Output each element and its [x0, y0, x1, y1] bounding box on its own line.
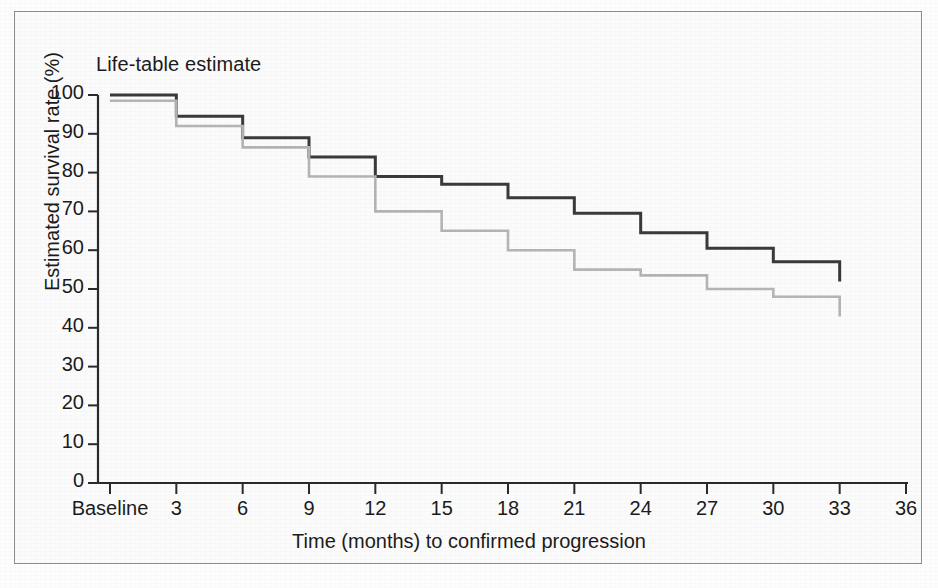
x-tick-label: 15: [422, 497, 462, 520]
y-tick-label: 70: [40, 197, 84, 220]
x-tick-label: 18: [488, 497, 528, 520]
x-tick-label: 3: [156, 497, 196, 520]
x-tick-label: 12: [355, 497, 395, 520]
y-tick-label: 60: [40, 236, 84, 259]
y-tick-label: 30: [40, 353, 84, 376]
figure-container: Life-table estimate Estimated survival r…: [0, 0, 938, 588]
series-line-lower: [110, 101, 840, 317]
y-tick-label: 50: [40, 275, 84, 298]
x-tick-label: 30: [753, 497, 793, 520]
x-tick-label: 6: [223, 497, 263, 520]
x-tick-label: 21: [554, 497, 594, 520]
y-tick-label: 20: [40, 391, 84, 414]
x-tick-label: Baseline: [50, 497, 170, 520]
axes-group: [88, 95, 908, 494]
y-tick-label: 40: [40, 314, 84, 337]
y-axis-ticks: [88, 95, 98, 483]
y-tick-label: 90: [40, 120, 84, 143]
x-tick-label: 27: [687, 497, 727, 520]
x-tick-label: 36: [886, 497, 926, 520]
series-line-upper: [110, 95, 840, 282]
x-tick-label: 24: [621, 497, 661, 520]
x-tick-label: 9: [289, 497, 329, 520]
data-series-group: [110, 95, 840, 316]
x-tick-label: 33: [820, 497, 860, 520]
y-tick-label: 10: [40, 430, 84, 453]
x-axis-ticks: [110, 483, 906, 494]
y-tick-label: 0: [40, 469, 84, 492]
y-tick-label: 100: [40, 81, 84, 104]
y-tick-label: 80: [40, 159, 84, 182]
